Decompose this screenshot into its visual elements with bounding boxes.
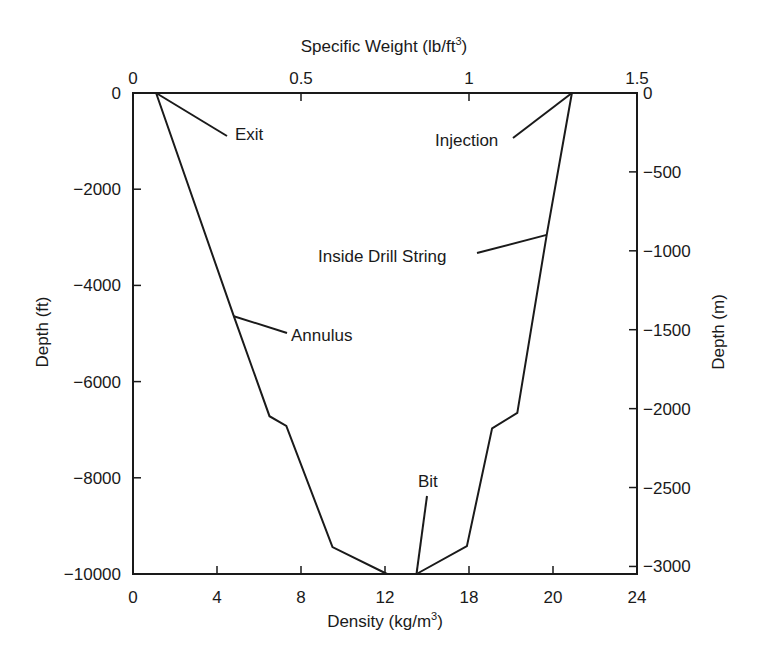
leader-line-inside-drill-string — [477, 235, 547, 253]
drilling-fluid-density-chart: 0481218202400.511.50−2000−4000−6000−8000… — [0, 0, 761, 672]
leader-line-bit — [417, 496, 428, 574]
right-tick-label: −1500 — [643, 321, 691, 340]
series-annulus — [156, 93, 387, 574]
right-tick-label: 0 — [643, 84, 652, 103]
leader-line-injection — [513, 93, 572, 138]
annotation-inside-drill-string: Inside Drill String — [318, 247, 447, 266]
right-tick-label: −2000 — [643, 400, 691, 419]
right-tick-label: −1000 — [643, 242, 691, 261]
right-tick-label: −3000 — [643, 557, 691, 576]
right-tick-label: −2500 — [643, 479, 691, 498]
top-axis-title: Specific Weight (lb/ft3) — [301, 35, 467, 56]
leader-line-annulus — [234, 316, 287, 333]
right-axis-title: Depth (m) — [709, 294, 728, 370]
annotation-annulus: Annulus — [291, 326, 352, 345]
left-tick-label: −6000 — [73, 373, 121, 392]
bottom-tick-label: 8 — [296, 588, 305, 607]
bottom-tick-label: 4 — [212, 588, 221, 607]
bottom-tick-label: 24 — [628, 588, 647, 607]
left-axis-title: Depth (ft) — [33, 297, 52, 368]
left-tick-label: −4000 — [73, 276, 121, 295]
left-tick-label: −8000 — [73, 469, 121, 488]
top-tick-label: 0.5 — [289, 69, 313, 88]
annotation-exit: Exit — [235, 125, 264, 144]
annotations: ExitInjectionInside Drill StringAnnulusB… — [156, 93, 572, 574]
right-tick-label: −500 — [643, 163, 681, 182]
tick-marks: 0481218202400.511.50−2000−4000−6000−8000… — [64, 69, 691, 607]
data-series — [156, 93, 572, 574]
bottom-tick-label: 20 — [544, 588, 563, 607]
left-tick-label: −10000 — [64, 565, 121, 584]
bottom-axis-title: Density (kg/m3) — [327, 610, 443, 631]
annotation-bit: Bit — [418, 472, 438, 491]
left-tick-label: −2000 — [73, 180, 121, 199]
bottom-tick-label: 18 — [460, 588, 479, 607]
leader-line-exit — [156, 93, 227, 136]
left-tick-label: 0 — [112, 84, 121, 103]
bottom-tick-label: 12 — [376, 588, 395, 607]
plot-frame — [133, 93, 637, 574]
series-inside-drill-string — [417, 93, 572, 574]
axes — [133, 93, 637, 574]
annotation-injection: Injection — [435, 131, 498, 150]
top-tick-label: 1 — [464, 69, 473, 88]
bottom-tick-label: 0 — [128, 588, 137, 607]
top-tick-label: 0 — [128, 69, 137, 88]
